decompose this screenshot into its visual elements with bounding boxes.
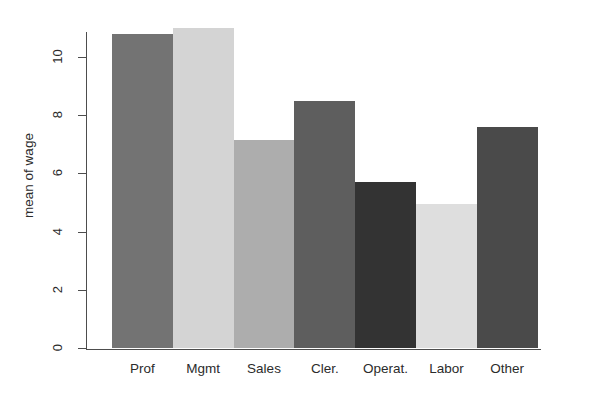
bar-labor: [416, 204, 477, 348]
y-axis-tick-label-text: 8: [51, 102, 64, 128]
y-axis-tick-label: 0: [44, 340, 70, 356]
y-axis-tick-label: 4: [44, 224, 70, 240]
y-axis-tick-label-text: 6: [51, 160, 64, 186]
x-axis-line: [86, 349, 541, 350]
bar-mgmt: [173, 28, 234, 348]
y-axis-tick-label: 6: [44, 165, 70, 181]
y-axis-tick-mark: [78, 57, 86, 58]
y-axis-tick-label-text: 10: [51, 44, 64, 70]
y-axis-tick-mark: [78, 115, 86, 116]
y-axis-tick-label-text: 2: [51, 276, 64, 302]
bar-sales: [234, 140, 295, 348]
y-axis-tick-label-text: 0: [51, 335, 64, 361]
y-axis-line: [86, 32, 87, 349]
y-axis-tick-mark: [78, 173, 86, 174]
y-axis-title: mean of wage: [21, 106, 36, 246]
y-axis-tick-label: 8: [44, 107, 70, 123]
x-axis-label-other: Other: [457, 361, 557, 376]
y-axis-tick-label: 2: [44, 282, 70, 298]
bar-cler: [294, 101, 355, 348]
y-axis-tick-mark: [78, 232, 86, 233]
y-axis-tick-label: 10: [44, 49, 70, 65]
bar-other: [477, 127, 538, 348]
y-axis-tick-mark: [78, 290, 86, 291]
plot-area: [112, 20, 538, 348]
y-axis-tick-mark: [78, 348, 86, 349]
bar-operat: [355, 182, 416, 348]
bar-chart-figure: mean of wage 0246810 ProfMgmtSalesCler.O…: [0, 0, 595, 396]
bar-prof: [112, 34, 173, 348]
y-axis-tick-label-text: 4: [51, 218, 64, 244]
